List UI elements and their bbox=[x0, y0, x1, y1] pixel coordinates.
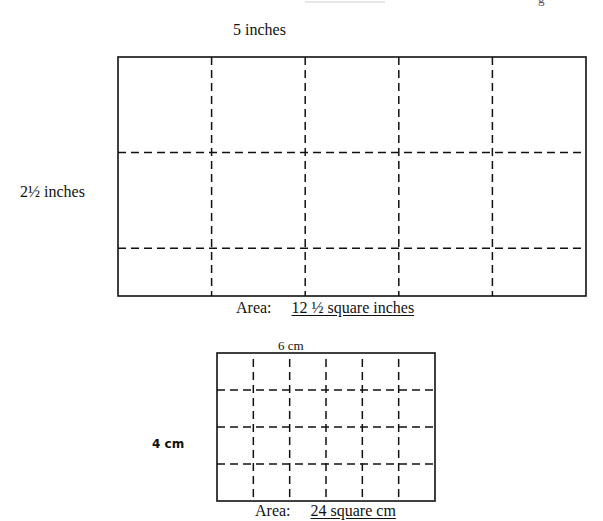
diagram-canvas bbox=[0, 0, 603, 521]
large-rectangle-outline bbox=[118, 57, 586, 296]
small-rectangle-grid bbox=[217, 359, 435, 501]
large-rectangle-grid bbox=[118, 57, 586, 296]
